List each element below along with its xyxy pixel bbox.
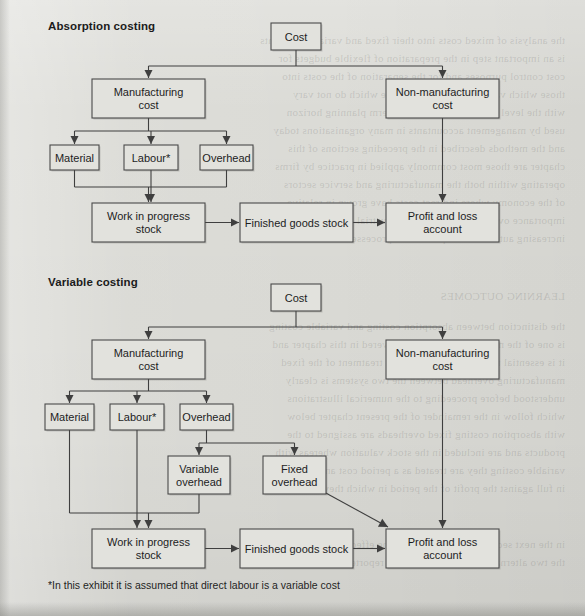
node-var-nonmanufacturing: Non-manufacturingcost: [386, 340, 501, 381]
node-label: overhead: [176, 476, 222, 488]
node-label: Manufacturing: [114, 347, 184, 359]
costing-flow-diagram: CostManufacturingcostNon-manufacturingco…: [0, 0, 585, 616]
arrowhead-down: [145, 70, 153, 78]
node-label: Profit and loss: [408, 536, 478, 548]
node-label: cost: [432, 360, 452, 372]
node-label: Overhead: [182, 411, 230, 423]
arrowhead-right: [231, 219, 239, 227]
node-label: Labour*: [132, 152, 171, 164]
arrowhead-down: [66, 395, 74, 403]
node-var-finished: Finished goods stock: [240, 529, 355, 570]
arrowhead-down: [133, 395, 141, 403]
arrowhead-down: [223, 136, 231, 144]
arrowhead-down: [147, 136, 155, 144]
node-var-labour: Labour*: [110, 404, 166, 432]
node-var-wip: Work in progressstock: [92, 529, 207, 570]
arrowhead-down: [439, 520, 447, 528]
node-label: Cost: [285, 292, 308, 304]
node-label: Material: [55, 152, 94, 164]
node-abs-labour: Labour*: [124, 145, 180, 172]
node-label: cost: [138, 360, 158, 372]
node-label: Labour*: [118, 411, 157, 423]
node-label: stock: [136, 223, 162, 235]
arrowhead-right: [377, 219, 385, 227]
node-label: Profit and loss: [408, 210, 478, 222]
node-abs-overhead: Overhead: [200, 145, 255, 172]
node-var-profitloss: Profit and lossaccount: [386, 529, 501, 570]
node-label: overhead: [272, 476, 318, 488]
section-title-absorption-costing: Absorption costing: [48, 20, 155, 32]
arrowhead-down: [145, 520, 153, 528]
diagram-nodes-layer: CostManufacturingcostNon-manufacturingco…: [45, 23, 501, 570]
arrowhead-down: [195, 447, 203, 455]
section-title-variable-costing: Variable costing: [48, 276, 138, 288]
node-var-fixed-oh: Fixedoverhead: [263, 456, 328, 496]
arrowhead-down: [439, 331, 447, 339]
node-label: Work in progress: [107, 536, 190, 548]
diagram-page: the analysis of mixed costs into their f…: [0, 0, 585, 616]
node-abs-wip: Work in progressstock: [92, 203, 207, 244]
arrowhead-down: [439, 70, 447, 78]
diagram-edges-layer: [66, 50, 447, 553]
arrowhead-down: [291, 447, 299, 455]
node-var-overhead: Overhead: [180, 404, 235, 432]
arrowhead-down: [133, 520, 141, 528]
node-var-variable-oh: Variableoverhead: [168, 456, 232, 496]
connector-fixed-overhead-to-profit-loss: [324, 492, 388, 527]
arrowhead-right: [377, 545, 385, 553]
node-label: Manufacturing: [114, 86, 184, 98]
footnote-labour-variable-cost: *In this exhibit it is assumed that dire…: [48, 579, 340, 591]
node-abs-material: Material: [50, 145, 101, 172]
node-label: cost: [432, 99, 452, 111]
node-label: Finished goods stock: [245, 217, 349, 229]
node-label: Non-manufacturing: [396, 86, 490, 98]
node-var-cost: Cost: [271, 284, 323, 313]
node-label: Overhead: [202, 152, 250, 164]
node-label: Work in progress: [107, 210, 190, 222]
node-label: Variable: [179, 463, 219, 475]
node-var-material: Material: [45, 404, 96, 432]
node-label: Material: [50, 411, 89, 423]
node-label: account: [423, 223, 462, 235]
arrowhead-down: [145, 331, 153, 339]
node-abs-nonmanufacturing: Non-manufacturingcost: [386, 79, 501, 120]
node-abs-finished: Finished goods stock: [240, 203, 355, 244]
node-var-manufacturing: Manufacturingcost: [92, 340, 207, 381]
arrowhead-down: [439, 194, 447, 202]
node-abs-profitloss: Profit and lossaccount: [386, 203, 501, 244]
node-abs-cost: Cost: [271, 23, 323, 52]
node-label: Non-manufacturing: [396, 347, 490, 359]
node-label: stock: [136, 549, 162, 561]
node-abs-manufacturing: Manufacturingcost: [92, 79, 207, 120]
node-label: Cost: [285, 31, 308, 43]
node-label: account: [423, 549, 462, 561]
node-label: Finished goods stock: [245, 543, 349, 555]
node-label: Fixed: [281, 463, 308, 475]
node-label: cost: [138, 99, 158, 111]
arrowhead-down: [203, 395, 211, 403]
arrowhead-down: [71, 136, 79, 144]
arrowhead-right: [231, 545, 239, 553]
